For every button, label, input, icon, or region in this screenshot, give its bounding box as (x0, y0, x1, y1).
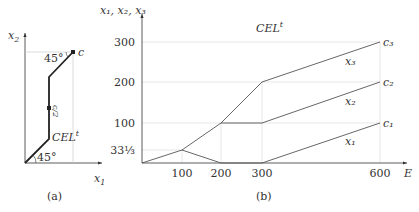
point-c-half (47, 106, 51, 110)
panel-b: x₁, x₂, x₃ CELt 300 200 100 33⅓ 100 200 … (100, 4, 412, 203)
cel-label-a: CELt (52, 129, 80, 144)
x1-axis-label: x1 (94, 172, 105, 187)
series-label-x3: x₃ (345, 55, 356, 68)
angle-top-label: 45° (44, 52, 64, 65)
x-tick-100: 100 (172, 167, 193, 180)
point-c-label: c (78, 46, 84, 59)
end-label-c3: c₃ (383, 36, 394, 49)
end-label-c1: c₁ (383, 117, 394, 130)
y-tick-300: 300 (114, 36, 135, 49)
point-c (71, 50, 75, 54)
end-label-c2: c₂ (383, 76, 394, 89)
angle-arc-bottom (33, 155, 36, 163)
x-tick-200: 200 (211, 167, 232, 180)
figure: x2 x1 c 45° 45° c/2 CELt (a) x₁, x₂, x₃ … (0, 0, 419, 212)
caption-b: (b) (256, 190, 272, 203)
y-tick-100: 100 (114, 117, 135, 130)
x-axis-label: E (403, 167, 412, 180)
x-tick-600: 600 (370, 167, 391, 180)
series-label-x2: x₂ (345, 95, 356, 108)
chart-title: CELt (256, 20, 284, 35)
series-x2 (221, 82, 380, 123)
c-half-label: c/2 (51, 105, 60, 117)
y-tick-200: 200 (114, 76, 135, 89)
x2-axis-label: x2 (8, 29, 19, 44)
x-tick-300: 300 (252, 167, 273, 180)
panel-a: x2 x1 c 45° 45° c/2 CELt (a) (8, 29, 105, 203)
y-tick-33: 33⅓ (110, 144, 135, 157)
series-label-x1: x₁ (345, 135, 356, 148)
y-axis-label: x₁, x₂, x₃ (100, 4, 146, 17)
angle-bottom-label: 45° (37, 151, 57, 164)
caption-a: (a) (47, 190, 62, 203)
angle-arc-top (66, 52, 68, 57)
